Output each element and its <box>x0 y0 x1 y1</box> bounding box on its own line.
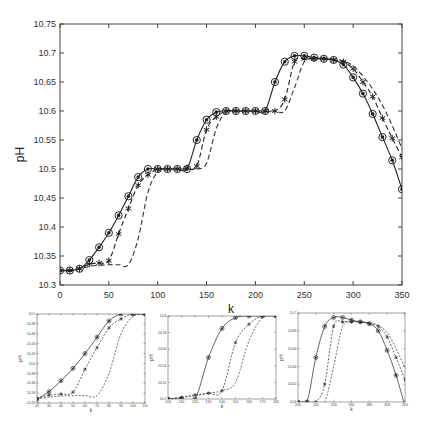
dot-marker <box>36 398 38 400</box>
asterisk-marker <box>220 389 223 393</box>
dot-marker <box>97 246 101 250</box>
inset-plot-2: 10011012013014015016017018010.510.5210.5… <box>148 314 279 409</box>
asterisk-marker <box>399 154 405 160</box>
dot-marker <box>400 188 404 192</box>
dot-marker <box>108 320 110 322</box>
dot-marker <box>84 353 86 355</box>
x-tick-label: 220 <box>313 403 319 407</box>
dot-marker <box>293 54 297 58</box>
dot-marker <box>395 374 397 376</box>
y-tick-label: 10.5 <box>160 397 167 401</box>
y-tick-label: 10.44 <box>27 342 36 346</box>
figure: 05010015020025030035010.310.3510.410.451… <box>0 0 429 421</box>
y-tick-label: 10.4 <box>38 222 56 232</box>
dot-marker <box>234 109 238 113</box>
asterisk-marker <box>380 115 386 121</box>
x-tick-label: 100 <box>130 404 136 408</box>
x-tick-label: 280 <box>366 403 372 407</box>
y-tick-label: 10.4 <box>29 362 36 366</box>
dot-marker <box>58 269 62 273</box>
dot-marker <box>381 135 385 139</box>
x-tick-label: 350 <box>394 290 409 300</box>
y-tick-label: 10.36 <box>27 381 36 385</box>
y-axis-label: pH <box>148 354 154 361</box>
y-tick-label: 10.75 <box>33 19 56 29</box>
series-dashed-reference <box>60 59 402 271</box>
dot-marker <box>342 63 346 67</box>
dot-marker <box>224 109 228 113</box>
asterisk-marker <box>83 368 86 372</box>
dot-marker <box>144 313 146 315</box>
dot-marker <box>48 391 50 393</box>
dot-marker <box>205 118 209 122</box>
y-tick-label: 10.62 <box>288 382 297 386</box>
dot-marker <box>146 167 150 171</box>
y-tick-label: 10.5 <box>29 312 36 316</box>
dot-marker <box>332 58 336 62</box>
dot-marker <box>371 112 375 116</box>
y-tick-label: 10.6 <box>160 314 167 318</box>
y-tick-label: 10.35 <box>33 251 56 261</box>
dot-marker <box>283 60 287 64</box>
y-tick-label: 10.6 <box>38 106 56 116</box>
dot-marker <box>322 57 326 61</box>
dot-marker <box>312 56 316 60</box>
x-tick-label: 300 <box>384 403 390 407</box>
y-tick-label: 10.48 <box>27 322 36 326</box>
dot-marker <box>166 167 170 171</box>
y-tick-label: 10.64 <box>288 365 297 369</box>
x-tick-label: 180 <box>273 400 279 404</box>
dot-marker <box>117 214 121 218</box>
y-tick-label: 10.6 <box>290 400 297 404</box>
dot-marker <box>262 315 264 317</box>
main-plot: 05010015020025030035010.310.3510.410.451… <box>13 19 410 316</box>
dot-marker <box>208 357 210 359</box>
asterisk-marker <box>332 325 335 329</box>
y-tick-label: 10.65 <box>33 77 56 87</box>
dot-marker <box>361 92 365 96</box>
y-axis-label: pH <box>278 354 284 361</box>
dot-marker <box>68 269 72 273</box>
series-dashed-reference <box>37 314 145 399</box>
x-tick-label: 120 <box>192 400 198 404</box>
asterisk-marker <box>234 341 237 345</box>
asterisk-marker <box>116 231 122 237</box>
dot-marker <box>351 319 353 321</box>
series-dashed-asterisk <box>37 314 145 399</box>
x-tick-label: 50 <box>104 290 114 300</box>
x-tick-label: 250 <box>297 290 312 300</box>
dot-marker <box>377 330 379 332</box>
dot-marker <box>248 315 250 317</box>
series-solid-circle <box>298 317 405 407</box>
x-tick-label: 70 <box>95 404 99 408</box>
dot-marker <box>127 194 131 198</box>
series-dashed-asterisk <box>298 320 405 403</box>
x-tick-label: 150 <box>233 400 239 404</box>
asterisk-marker <box>389 135 395 141</box>
asterisk-marker <box>282 96 288 102</box>
x-tick-label: 60 <box>83 404 87 408</box>
y-tick-label: 10.3 <box>38 280 56 290</box>
dot-marker <box>60 380 62 382</box>
inset-plot-3: 20022024026028030032010.610.6210.6410.66… <box>278 311 408 412</box>
dot-marker <box>359 321 361 323</box>
dot-marker <box>254 109 258 113</box>
dot-marker <box>275 315 277 317</box>
x-tick-label: 110 <box>142 404 148 408</box>
dot-marker <box>120 313 122 315</box>
x-tick-label: 320 <box>402 403 408 407</box>
dot-marker <box>156 167 160 171</box>
x-tick-label: 80 <box>107 404 111 408</box>
dot-marker <box>324 325 326 327</box>
x-tick-label: 0 <box>57 290 62 300</box>
x-tick-label: 90 <box>119 404 123 408</box>
y-tick-label: 10.54 <box>158 364 167 368</box>
dot-marker <box>386 349 388 351</box>
series-dashed-asterisk <box>60 58 402 271</box>
dot-marker <box>72 367 74 369</box>
dot-marker <box>306 401 308 403</box>
y-tick-label: 10.32 <box>27 401 36 405</box>
dot-marker <box>368 323 370 325</box>
x-tick-label: 160 <box>246 400 252 404</box>
dot-marker <box>273 80 277 84</box>
